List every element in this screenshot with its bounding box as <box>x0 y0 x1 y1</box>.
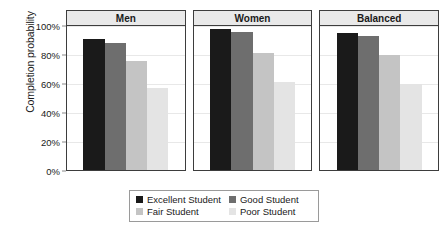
bar <box>126 61 147 170</box>
legend-label: Excellent Student <box>147 194 221 205</box>
y-axis: 100%80%60%40%20%0% <box>20 26 66 171</box>
y-tick-label: 40% <box>41 108 60 119</box>
legend-swatch-icon <box>229 196 236 203</box>
panel-women: Women <box>193 10 313 171</box>
plot-area <box>319 26 439 171</box>
y-tick-label: 60% <box>41 79 60 90</box>
bar <box>210 29 231 170</box>
bar-group <box>320 26 438 170</box>
bar <box>147 88 168 170</box>
legend-swatch-icon <box>229 208 236 215</box>
panel-men: Men <box>66 10 186 171</box>
bar <box>400 84 421 170</box>
y-tick-label: 100% <box>36 21 60 32</box>
panel-balanced: Balanced <box>319 10 439 171</box>
bar <box>337 33 358 170</box>
chart-legend: Excellent StudentGood StudentFair Studen… <box>129 190 319 222</box>
y-tick-label: 0% <box>46 166 60 177</box>
legend-label: Good Student <box>240 194 299 205</box>
plot-area <box>193 26 313 171</box>
y-tick-label: 20% <box>41 137 60 148</box>
legend-label: Poor Student <box>240 206 295 217</box>
panel-title: Balanced <box>319 10 439 26</box>
legend-item: Poor Student <box>229 206 312 217</box>
legend-swatch-icon <box>136 208 143 215</box>
bar <box>274 82 295 170</box>
legend-item: Good Student <box>229 194 312 205</box>
bar <box>358 36 379 170</box>
bar <box>231 32 252 170</box>
legend-item: Excellent Student <box>136 194 221 205</box>
panel-row: MenWomenBalanced <box>66 10 439 171</box>
bar <box>253 53 274 170</box>
legend-item: Fair Student <box>136 206 221 217</box>
plot-area <box>66 26 186 171</box>
bar <box>83 39 104 170</box>
grouped-bar-chart: Completion probability 100%80%60%40%20%0… <box>0 0 447 232</box>
bar-group <box>194 26 312 170</box>
panel-title: Men <box>66 10 186 26</box>
bar-group <box>67 26 185 170</box>
panel-title: Women <box>193 10 313 26</box>
bar <box>379 55 400 170</box>
legend-swatch-icon <box>136 196 143 203</box>
legend-label: Fair Student <box>147 206 199 217</box>
bar <box>105 43 126 170</box>
y-tick-label: 80% <box>41 50 60 61</box>
